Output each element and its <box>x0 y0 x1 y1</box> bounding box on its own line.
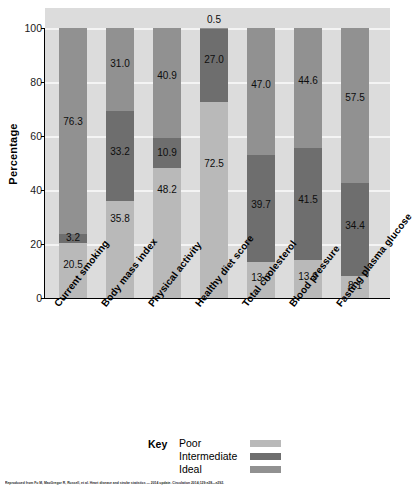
bar-total-cholesterol[interactable]: 47.0 39.7 13.3 <box>247 28 275 298</box>
segment-intermediate[interactable]: 39.7 <box>247 155 275 262</box>
segment-intermediate[interactable]: 10.9 <box>153 138 181 168</box>
segment-intermediate[interactable]: 41.5 <box>294 148 322 260</box>
y-axis-line <box>44 28 45 299</box>
footer-credit: Reproduced from Fu M, MacGregor R, Russe… <box>5 481 396 486</box>
segment-ideal[interactable]: 47.0 <box>247 28 275 155</box>
legend-item-poor[interactable]: Poor <box>179 437 281 450</box>
y-tick-label-80: 80 <box>12 77 42 87</box>
segment-label-ideal: 44.6 <box>294 76 322 86</box>
y-tick-label-40: 40 <box>12 185 42 195</box>
bar-physical-activity[interactable]: 40.9 10.9 48.2 <box>153 28 181 298</box>
legend-swatch-intermediate-icon <box>250 453 281 460</box>
legend-label-intermediate: Intermediate <box>179 450 245 463</box>
segment-label-ideal: 31.0 <box>106 59 134 69</box>
y-tick-label-100: 100 <box>12 23 42 33</box>
legend-label-ideal: Ideal <box>179 463 245 476</box>
y-axis-title: Percentage <box>7 94 19 214</box>
segment-label-intermediate: 3.2 <box>59 233 87 243</box>
legend-item-intermediate[interactable]: Intermediate <box>179 450 281 463</box>
legend-swatch-poor-icon <box>250 440 281 447</box>
segment-intermediate[interactable]: 3.2 <box>59 234 87 243</box>
segment-intermediate[interactable]: 27.0 <box>200 29 228 102</box>
y-tick-label-20: 20 <box>12 239 42 249</box>
bar-blood-pressure[interactable]: 44.6 41.5 13.9 <box>294 28 322 298</box>
segment-ideal[interactable]: 40.9 <box>153 28 181 139</box>
bar-current-smoking[interactable]: 76.3 3.2 20.5 <box>59 28 87 298</box>
segment-label-intermediate: 33.2 <box>106 147 134 157</box>
bar-fasting-plasma-glucose[interactable]: 57.5 34.4 8.1 <box>341 28 369 298</box>
y-tick-label-0: 0 <box>12 293 42 303</box>
y-tick-label-60: 60 <box>12 131 42 141</box>
segment-label-intermediate: 39.7 <box>247 200 275 210</box>
segment-label-ideal: 76.3 <box>59 117 87 127</box>
segment-label-ideal: 40.9 <box>153 71 181 81</box>
segment-label-intermediate: 27.0 <box>200 55 228 65</box>
segment-label-ideal: 47.0 <box>247 80 275 90</box>
legend-item-ideal[interactable]: Ideal <box>179 463 281 476</box>
segment-ideal[interactable]: 76.3 <box>59 28 87 234</box>
segment-label-poor: 35.8 <box>106 214 134 224</box>
segment-ideal[interactable]: 44.6 <box>294 28 322 149</box>
segment-ideal[interactable]: 31.0 <box>106 28 134 112</box>
segment-label-ideal: 0.5 <box>200 15 228 25</box>
bar-body-mass-index[interactable]: 31.0 33.2 35.8 <box>106 28 134 298</box>
legend: Key Poor Intermediate Ideal <box>148 437 281 476</box>
legend-title: Key <box>148 438 167 450</box>
segment-intermediate[interactable]: 33.2 <box>106 111 134 201</box>
segment-label-poor: 72.5 <box>200 159 228 169</box>
segment-ideal[interactable]: 57.5 <box>341 28 369 184</box>
bar-healthy-diet-score[interactable]: 0.5 27.0 72.5 <box>200 28 228 298</box>
segment-label-intermediate: 41.5 <box>294 195 322 205</box>
segment-label-intermediate: 34.4 <box>341 221 369 231</box>
legend-label-poor: Poor <box>179 437 245 450</box>
segment-label-ideal: 57.5 <box>341 93 369 103</box>
segment-label-intermediate: 10.9 <box>153 148 181 158</box>
segment-label-poor: 48.2 <box>153 185 181 195</box>
legend-swatch-ideal-icon <box>250 466 281 473</box>
